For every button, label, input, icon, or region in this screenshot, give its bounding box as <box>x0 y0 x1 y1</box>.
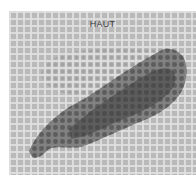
label-haut: HAUT <box>9 19 196 29</box>
mesh-panel: HAUT <box>9 11 196 175</box>
leaf-shape <box>9 11 196 175</box>
